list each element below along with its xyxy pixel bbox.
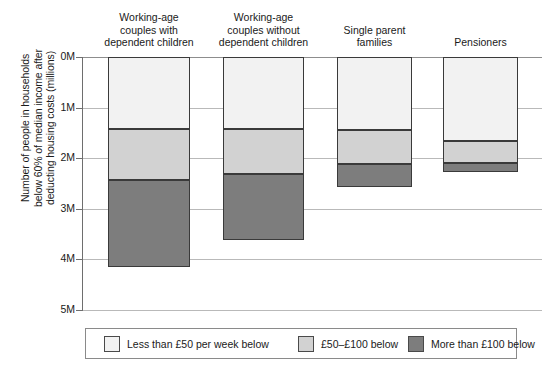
bar-segment — [337, 57, 412, 130]
legend-swatch — [408, 336, 424, 352]
bar-segment — [443, 163, 518, 172]
bar-segment — [223, 129, 304, 174]
y-axis-tick-label: 5M — [35, 303, 75, 315]
bar-segment — [337, 164, 412, 187]
gridline — [82, 310, 542, 311]
y-axis-tick-label: 3M — [35, 202, 75, 214]
bar-segment — [108, 180, 190, 267]
y-axis-tick-label: 0M — [35, 50, 75, 62]
bar-4 — [443, 57, 518, 310]
plot-area — [82, 57, 542, 310]
bar-2 — [223, 57, 304, 310]
bar-3 — [337, 57, 412, 310]
legend-item-1: Less than £50 per week below — [104, 329, 269, 358]
stacked-bar-chart: Number of people in households below 60%… — [0, 0, 558, 380]
y-axis-tick-label: 2M — [35, 151, 75, 163]
bar-segment — [108, 129, 190, 180]
bar-1 — [108, 57, 190, 310]
bar-segment — [443, 141, 518, 163]
legend-swatch — [104, 336, 120, 352]
legend-item-2: £50–£100 below — [298, 329, 398, 358]
legend-swatch — [298, 336, 314, 352]
legend-label: Less than £50 per week below — [127, 338, 269, 350]
category-label-4: Pensioners — [411, 36, 551, 48]
legend-item-3: More than £100 below — [408, 329, 535, 358]
y-axis-tick-label: 4M — [35, 252, 75, 264]
bar-segment — [223, 174, 304, 240]
legend: Less than £50 per week below£50–£100 bel… — [85, 328, 517, 359]
bar-segment — [337, 130, 412, 163]
y-axis-tick — [76, 310, 83, 311]
y-axis-tick-label: 1M — [35, 101, 75, 113]
bar-segment — [108, 57, 190, 129]
legend-label: £50–£100 below — [321, 338, 398, 350]
bar-segment — [223, 57, 304, 129]
y-axis-title-text: Number of people in households below 60%… — [19, 49, 56, 207]
bar-segment — [443, 57, 518, 141]
legend-label: More than £100 below — [431, 338, 535, 350]
